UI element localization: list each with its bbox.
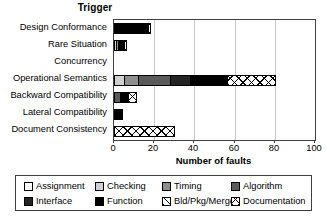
category-axis-labels: Design ConformanceRare SituationConcurre… — [0, 19, 110, 139]
category-label-operational-semantics: Operational Semantics — [0, 74, 107, 83]
x-tick-label-40: 40 — [178, 143, 208, 153]
segment-function — [114, 109, 123, 120]
stacked-bar — [114, 40, 126, 51]
segment-documentation — [227, 75, 276, 86]
x-tick-label-60: 60 — [219, 143, 249, 153]
stacked-bar — [114, 75, 275, 86]
interface-swatch — [24, 197, 33, 206]
bldpkgmerge-swatch — [162, 197, 171, 206]
x-tick-label-0: 0 — [98, 143, 128, 153]
category-label-design-conformance: Design Conformance — [0, 23, 107, 32]
legend-label: Checking — [107, 181, 146, 191]
legend-label: Interface — [36, 196, 72, 206]
assignment-swatch — [24, 182, 33, 191]
timing-swatch — [162, 182, 171, 191]
legend-label: Assignment — [36, 181, 85, 191]
function-swatch — [95, 197, 104, 206]
segment-timing — [124, 75, 139, 86]
legend-item-timing[interactable]: Timing — [162, 179, 202, 193]
plot-area — [113, 19, 316, 141]
legend-item-function[interactable]: Function — [95, 194, 143, 208]
legend-label: Documentation — [243, 196, 306, 206]
legend-label: Function — [107, 196, 143, 206]
chart-title: Trigger — [40, 2, 150, 13]
segment-function — [190, 75, 227, 86]
segment-function — [114, 23, 149, 34]
segment-algorithm — [138, 75, 171, 86]
legend-item-documentation[interactable]: Documentation — [231, 194, 306, 208]
segment-documentation — [128, 92, 137, 103]
segment-documentation — [148, 23, 151, 34]
legend-item-assignment[interactable]: Assignment — [24, 179, 85, 193]
segment-interface — [170, 75, 191, 86]
legend-label: Bld/Pkg/Merge — [174, 196, 235, 206]
x-tick-label-100: 100 — [299, 143, 327, 153]
category-label-document-consistency: Document Consistency — [0, 125, 107, 134]
category-label-concurrency: Concurrency — [0, 57, 107, 66]
legend-label: Timing — [174, 181, 202, 191]
legend-item-checking[interactable]: Checking — [95, 179, 146, 193]
stacked-bar — [114, 92, 136, 103]
stacked-bar — [114, 126, 174, 137]
legend-item-interface[interactable]: Interface — [24, 194, 72, 208]
x-axis-title: Number of faults — [113, 155, 314, 166]
stacked-bar — [114, 23, 150, 34]
segment-documentation — [114, 126, 175, 137]
chart-figure: Trigger Design ConformanceRare Situation… — [0, 0, 327, 220]
x-tick-label-20: 20 — [138, 143, 168, 153]
category-label-backward-compatibility: Backward Compatibility — [0, 91, 107, 100]
algorithm-swatch — [231, 182, 240, 191]
category-label-lateral-compatibility: Lateral Compatibility — [0, 108, 107, 117]
checking-swatch — [95, 182, 104, 191]
stacked-bar — [114, 109, 122, 120]
legend-label: Algorithm — [243, 181, 282, 191]
segment-documentation — [124, 40, 127, 51]
legend-item-algorithm[interactable]: Algorithm — [231, 179, 282, 193]
x-tick-label-80: 80 — [259, 143, 289, 153]
legend-item-bld-pkg-merge[interactable]: Bld/Pkg/Merge — [162, 194, 235, 208]
category-label-rare-situation: Rare Situation — [0, 40, 107, 49]
chart-legend: AssignmentCheckingTimingAlgorithmInterfa… — [15, 175, 312, 211]
bar-series-group — [114, 20, 315, 140]
documentation-swatch — [231, 197, 240, 206]
